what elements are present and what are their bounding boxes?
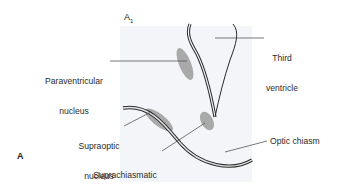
third-ventricle-label: Third ventricle <box>262 33 302 113</box>
hypothalamus-diagram: A1 A Paraventricular nucleus Third ventr… <box>0 0 343 184</box>
suprachiasmatic-nucleus-label: Suprachiasmatic nucleus <box>88 150 162 184</box>
subpanel-label: A1 <box>124 12 133 24</box>
panel-letter: A <box>17 151 24 161</box>
optic-chiasm-label: Optic chiasm <box>270 136 320 146</box>
